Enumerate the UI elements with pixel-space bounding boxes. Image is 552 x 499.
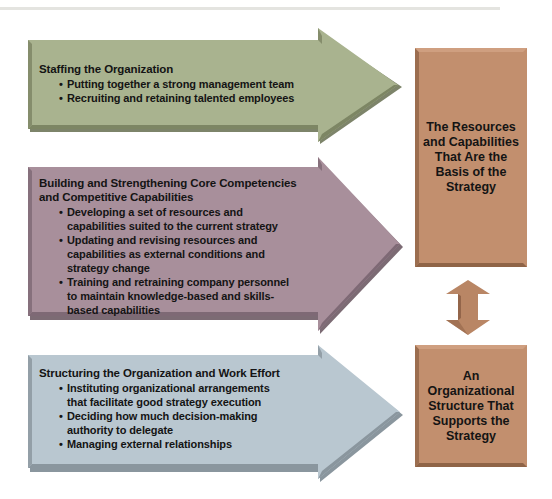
resources-capabilities-box: The Resources and Capabilities That Are … <box>415 48 527 267</box>
structuring-bullet: Managing external relationships <box>61 437 287 451</box>
staffing-arrow: Staffing the Organization Putting togeth… <box>39 62 319 105</box>
organizational-structure-box: An Organizational Structure That Support… <box>415 345 527 467</box>
core-competencies-bullet: Developing a set of resources and capabi… <box>61 205 299 233</box>
structuring-heading: Structuring the Organization and Work Ef… <box>39 366 317 380</box>
structuring-bullet: Instituting organizational arrangements … <box>61 381 287 409</box>
staffing-bullet: Recruiting and retaining talented employ… <box>61 91 319 105</box>
structuring-bullet-list: Instituting organizational arrangements … <box>39 381 317 451</box>
structure-box-label: An Organizational Structure That Support… <box>428 369 515 444</box>
resources-box-label: The Resources and Capabilities That Are … <box>423 120 519 195</box>
staffing-bullet-list: Putting together a strong management tea… <box>39 77 319 105</box>
core-competencies-heading: Building and Strengthening Core Competen… <box>39 176 317 204</box>
double-headed-arrow-icon <box>446 280 490 335</box>
structuring-bullet: Deciding how much decision-making author… <box>61 409 287 437</box>
staffing-heading: Staffing the Organization <box>39 62 319 76</box>
core-competencies-bullet: Training and retraining company personne… <box>61 275 299 317</box>
core-competencies-bullet: Updating and revising resources and capa… <box>61 233 299 275</box>
staffing-bullet: Putting together a strong management tea… <box>61 77 319 91</box>
core-competencies-bullet-list: Developing a set of resources and capabi… <box>39 205 317 317</box>
structuring-arrow: Structuring the Organization and Work Ef… <box>39 366 317 451</box>
core-competencies-arrow: Building and Strengthening Core Competen… <box>39 176 317 317</box>
